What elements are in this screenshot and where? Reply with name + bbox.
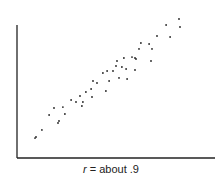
data-point: [90, 88, 92, 90]
data-point: [148, 43, 150, 45]
data-point: [112, 70, 114, 72]
data-point: [91, 96, 93, 98]
data-point: [134, 69, 136, 71]
data-point: [131, 56, 133, 58]
data-point: [138, 48, 140, 50]
data-point: [135, 58, 137, 60]
data-point: [57, 122, 59, 124]
data-point: [118, 77, 120, 79]
data-point: [150, 60, 152, 62]
data-point: [125, 68, 127, 70]
data-point: [48, 114, 50, 116]
scatter-chart: [0, 0, 222, 177]
data-point: [151, 48, 153, 50]
data-point: [115, 65, 117, 67]
data-point: [116, 60, 118, 62]
data-point: [64, 113, 66, 115]
correlation-value-text: = about .9: [87, 163, 139, 175]
correlation-caption: r = about .9: [0, 163, 222, 175]
data-point: [70, 99, 72, 101]
points-layer: [34, 18, 181, 139]
data-point: [58, 120, 60, 122]
data-point: [62, 106, 64, 108]
data-point: [105, 90, 107, 92]
data-point: [81, 105, 83, 107]
data-point: [106, 70, 108, 72]
data-point: [121, 66, 123, 68]
data-point: [102, 72, 104, 74]
data-point: [92, 80, 94, 82]
data-point: [123, 57, 125, 59]
data-point: [165, 24, 167, 26]
data-point: [179, 26, 181, 28]
data-point: [75, 101, 77, 103]
data-point: [79, 95, 81, 97]
data-point: [178, 18, 180, 20]
data-point: [85, 91, 87, 93]
data-point: [35, 136, 37, 138]
data-point: [108, 80, 110, 82]
data-point: [82, 101, 84, 103]
data-point: [140, 42, 142, 44]
data-point: [156, 35, 158, 37]
data-point: [126, 78, 128, 80]
data-point: [41, 129, 43, 131]
data-point: [53, 107, 55, 109]
data-point: [96, 82, 98, 84]
data-point: [169, 36, 171, 38]
